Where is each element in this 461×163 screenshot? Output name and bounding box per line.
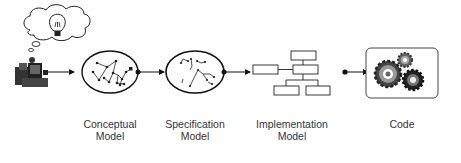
specification-model-graph (166, 51, 227, 93)
label-implementation-model: Implementation Model (237, 118, 347, 142)
label-specification-model: Specification Model (140, 118, 250, 142)
label-line2: Model (237, 130, 347, 142)
implementation-model-diagram (253, 51, 330, 95)
conceptual-model-graph (82, 51, 141, 93)
label-line1: Implementation (237, 118, 347, 130)
label-code: Code (347, 118, 457, 130)
gears-icon (366, 48, 438, 98)
person-at-computer-icon (15, 57, 48, 87)
label-line2: Model (140, 130, 250, 142)
label-line1: Code (347, 118, 457, 130)
label-line1: Specification (140, 118, 250, 130)
